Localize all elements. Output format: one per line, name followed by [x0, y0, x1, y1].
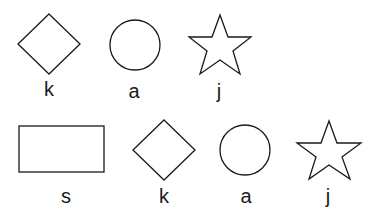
star-shape	[297, 121, 361, 179]
row1-item-diamond: k	[18, 14, 80, 100]
row2-item-rectangle: s	[19, 126, 104, 207]
row1-item-star: j	[189, 15, 251, 102]
shape-label: a	[240, 185, 252, 207]
diamond-shape	[18, 14, 80, 74]
shape-label: a	[128, 80, 140, 102]
circle-shape	[110, 20, 160, 70]
star-shape	[189, 15, 251, 74]
shape-label: j	[216, 80, 221, 102]
row2-item-circle: a	[220, 125, 270, 207]
shape-label-diagram: k a j s k a j	[0, 0, 378, 222]
shape-label: k	[159, 185, 170, 207]
row-1: k a j	[18, 14, 251, 102]
circle-shape	[220, 125, 270, 175]
shape-label: k	[44, 78, 55, 100]
row-2: s k a j	[19, 120, 361, 207]
shape-label: s	[61, 185, 71, 207]
shape-label: j	[325, 185, 330, 207]
row2-item-diamond: k	[133, 120, 195, 207]
diamond-shape	[133, 120, 195, 180]
row2-item-star: j	[297, 121, 361, 207]
rectangle-shape	[19, 126, 104, 172]
row1-item-circle: a	[110, 20, 160, 102]
